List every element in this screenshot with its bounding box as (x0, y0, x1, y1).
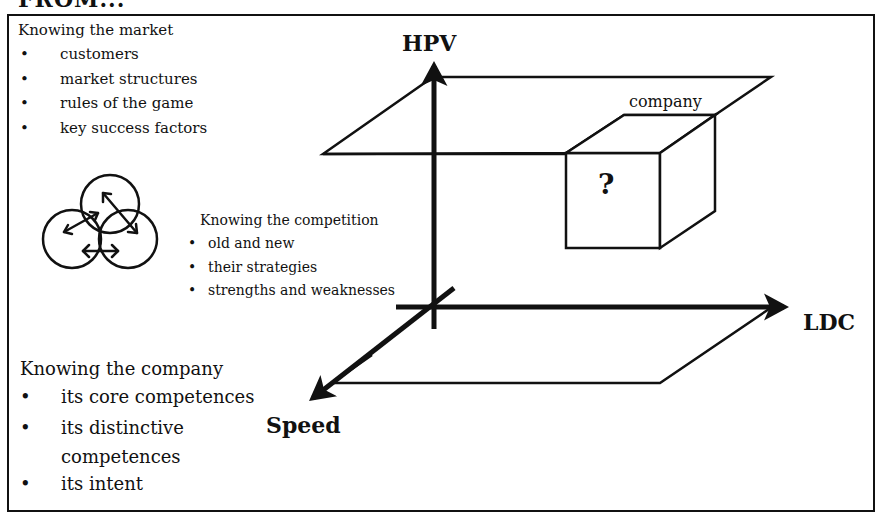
company-cube (566, 115, 715, 248)
market-item: •key success factors (20, 119, 207, 144)
speed-axis-label: Speed (266, 412, 341, 438)
market-item: •rules of the game (20, 94, 207, 119)
bullet-icon: • (20, 45, 29, 63)
bullet-icon: • (188, 259, 196, 275)
bullet-icon: • (20, 470, 31, 498)
competition-item: •old and new (188, 235, 395, 259)
company-item: •its core competences (20, 383, 254, 414)
company-item: •its intent (20, 470, 254, 498)
market-item: •market structures (20, 70, 207, 95)
competition-list: •old and new •their strategies •strength… (188, 235, 395, 306)
bullet-icon: • (188, 235, 196, 251)
market-item: •customers (20, 45, 207, 70)
venn-circle-left (43, 210, 101, 268)
company-item: •its distinctive (20, 414, 254, 443)
market-list: •customers •market structures •rules of … (20, 45, 207, 143)
ldc-axis-label: LDC (803, 309, 855, 335)
hpv-axis-label: HPV (402, 30, 456, 56)
venn-circle-right (99, 210, 157, 268)
bullet-icon: • (188, 282, 196, 298)
bullet-icon: • (20, 70, 29, 88)
competition-title: Knowing the competition (200, 212, 379, 228)
competition-item: •their strategies (188, 259, 395, 283)
company-list: •its core competences •its distinctive c… (20, 383, 254, 498)
bullet-icon: • (20, 94, 29, 112)
cube-label: company (629, 92, 702, 111)
question-mark: ? (598, 168, 614, 201)
venn-diagram (43, 175, 157, 268)
company-title: Knowing the company (20, 358, 223, 379)
venn-arrow-left (64, 213, 98, 232)
bullet-icon: • (20, 414, 31, 442)
bullet-icon: • (20, 383, 31, 411)
company-item-continuation: competences (20, 443, 254, 470)
competition-item: •strengths and weaknesses (188, 282, 395, 306)
bullet-icon: • (20, 119, 29, 137)
bottom-plane (332, 307, 772, 383)
market-title: Knowing the market (18, 21, 173, 39)
venn-arrow-diagonal (103, 193, 137, 233)
